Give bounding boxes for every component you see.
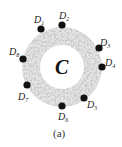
node-label-d5: D5 xyxy=(87,100,97,111)
node-label-d8: D8 xyxy=(9,47,19,58)
node-dot-d1 xyxy=(37,25,44,32)
node-label-d2: D2 xyxy=(59,11,69,22)
node-label-d3: D3 xyxy=(100,38,110,49)
node-dot-d7 xyxy=(23,81,30,88)
node-dot-d8 xyxy=(19,55,26,62)
node-label-d4: D4 xyxy=(105,58,115,69)
center-label-c: C xyxy=(55,57,68,77)
node-label-d6: D6 xyxy=(58,112,68,123)
node-dot-d6 xyxy=(58,102,65,109)
node-dot-d2 xyxy=(58,21,65,28)
node-label-d7: D7 xyxy=(18,92,28,103)
node-label-d1: D1 xyxy=(34,15,44,26)
figure-caption: (a) xyxy=(53,128,65,139)
